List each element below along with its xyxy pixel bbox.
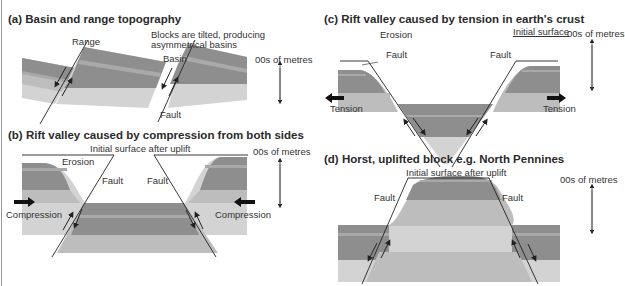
panel-d-fault-left-label: Fault [374, 193, 395, 203]
panel-a-scale-label: 00s of metres [255, 55, 313, 65]
panel-b-title: (b) Rift valley caused by compression fr… [8, 129, 304, 141]
panel-b-erosion-label: Erosion [62, 157, 94, 167]
panel-c-tension-right-label: Tension [543, 104, 576, 114]
panel-b-initial-surface-label: Initial surface after uplift [90, 144, 190, 154]
panel-d-scale-label: 00s of metres [560, 175, 618, 185]
panel-c-fault-left-label: Fault [386, 50, 407, 60]
panel-b-fault-right-label: Fault [147, 176, 168, 186]
panel-c-fault-right-label: Fault [490, 50, 511, 60]
panel-a-note-line2: asymmetrical basins [151, 40, 237, 50]
panel-c-erosion-label: Erosion [380, 30, 412, 40]
panel-a-range-label: Range [72, 37, 100, 47]
panel-a-basin-label: Basin [163, 54, 187, 64]
panel-b-block-diagram [14, 155, 280, 257]
panel-b-compression-right-label: Compression [215, 210, 271, 220]
panel-b-compression-left-label: Compression [6, 210, 62, 220]
panel-c-scale-label: 00s of metres [567, 29, 625, 39]
panel-c-title: (c) Rift valley caused by tension in ear… [324, 13, 584, 25]
panel-b-fault-left-label: Fault [102, 176, 123, 186]
panel-b-scale-label: 00s of metres [253, 147, 311, 157]
panel-d-fault-right-label: Fault [502, 193, 523, 203]
panel-c-tension-left-label: Tension [330, 104, 363, 114]
panel-a-block-diagram [22, 40, 280, 124]
panel-a-fault-label: Fault [160, 110, 181, 120]
panel-d-title: (d) Horst, uplifted block e.g. North Pen… [324, 153, 564, 165]
panel-a-title: (a) Basin and range topography [8, 13, 181, 25]
panel-c-initial-surface-label: Initial surface [513, 27, 569, 37]
panel-d-initial-surface-label: Initial surface after uplift [406, 168, 506, 178]
